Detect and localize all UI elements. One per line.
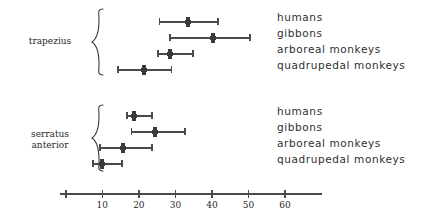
range-whisker — [158, 53, 193, 55]
range-cap-high — [121, 160, 123, 167]
range-cap-low — [117, 66, 119, 73]
mean-marker — [186, 17, 190, 27]
x-axis-tick — [284, 190, 286, 198]
mean-marker — [142, 65, 146, 75]
series-label: arboreal monkeys — [277, 137, 381, 149]
x-axis-tick — [211, 190, 213, 198]
series-label: quadrupedal monkeys — [277, 153, 405, 165]
x-axis-line — [60, 193, 321, 195]
x-axis-tick-label: 40 — [206, 200, 217, 210]
x-axis-tick-label: 10 — [97, 200, 108, 210]
interval-row — [0, 110, 433, 122]
range-cap-high — [171, 66, 173, 73]
mean-marker — [132, 111, 136, 121]
mean-marker — [211, 33, 215, 43]
range-whisker — [93, 163, 122, 165]
range-cap-low — [157, 50, 159, 57]
range-cap-high — [217, 18, 219, 25]
x-axis-tick-label: 20 — [133, 200, 144, 210]
figure-root: trapezius serratus anterior humansgibbon… — [0, 0, 433, 219]
range-cap-high — [184, 128, 186, 135]
x-axis-origin-tick — [65, 190, 67, 198]
plot-area: humansgibbonsarboreal monkeysquadrupedal… — [0, 0, 433, 219]
series-label: humans — [277, 11, 323, 23]
mean-marker — [153, 127, 157, 137]
x-axis-tick-label: 50 — [243, 200, 254, 210]
range-cap-low — [131, 128, 133, 135]
range-cap-low — [99, 144, 101, 151]
series-label: gibbons — [277, 27, 323, 39]
interval-row — [0, 16, 433, 28]
x-axis-tick — [248, 190, 250, 198]
x-axis-tick — [138, 190, 140, 198]
range-cap-low — [126, 112, 128, 119]
x-axis-tick-label: 30 — [170, 200, 181, 210]
mean-marker — [168, 49, 172, 59]
x-axis-tick — [102, 190, 104, 198]
range-cap-low — [159, 18, 161, 25]
range-cap-low — [169, 34, 171, 41]
series-label: quadrupedal monkeys — [277, 59, 405, 71]
x-axis-tick-label: 60 — [279, 200, 290, 210]
series-label: humans — [277, 105, 323, 117]
range-whisker — [132, 131, 185, 133]
range-cap-high — [151, 112, 153, 119]
range-cap-high — [192, 50, 194, 57]
range-cap-low — [92, 160, 94, 167]
mean-marker — [121, 143, 125, 153]
range-cap-high — [151, 144, 153, 151]
mean-marker — [100, 159, 104, 169]
x-axis-tick — [175, 190, 177, 198]
range-cap-high — [249, 34, 251, 41]
series-label: arboreal monkeys — [277, 43, 381, 55]
series-label: gibbons — [277, 121, 323, 133]
